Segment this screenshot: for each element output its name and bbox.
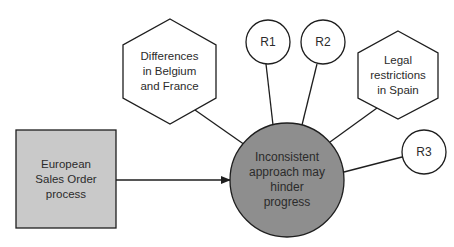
process-label: European Sales Order process	[16, 130, 116, 228]
impact-label: Inconsistent approach may hinder progres…	[232, 126, 342, 234]
edge-r2-to-impact	[302, 64, 317, 125]
cause-label-belgium-france: Differences in Belgium and France	[123, 19, 216, 124]
edge-r1-to-impact	[266, 64, 273, 125]
cause-label-spain: Legal restrictions in Spain	[358, 31, 438, 119]
risk-label-r3: R3	[402, 130, 446, 174]
risk-label-r1: R1	[246, 20, 290, 64]
risk-label-r2: R2	[301, 20, 345, 64]
edge-r3-to-impact	[344, 157, 402, 172]
